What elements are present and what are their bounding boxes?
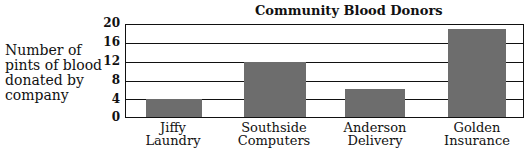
y-tick-16: 16: [98, 35, 120, 49]
bar-anderson-delivery: [345, 89, 405, 117]
bar-southside-computers: [244, 62, 306, 118]
y-tick-0: 0: [98, 110, 120, 124]
bar-jiffy-laundry: [146, 99, 202, 118]
y-tick-12: 12: [98, 54, 120, 68]
plot-area: [125, 24, 524, 118]
x-label-jiffy: JiffyLaundry: [123, 121, 223, 147]
chart-title: Community Blood Donors: [255, 3, 443, 18]
bar-golden-insurance: [448, 29, 506, 117]
y-tick-4: 4: [98, 92, 120, 106]
y-tick-20: 20: [98, 16, 120, 30]
y-tick-8: 8: [98, 73, 120, 87]
x-label-golden: GoldenInsurance: [427, 121, 527, 147]
x-label-anderson: AndersonDelivery: [325, 121, 425, 147]
x-label-southside: SouthsideComputers: [224, 121, 324, 147]
